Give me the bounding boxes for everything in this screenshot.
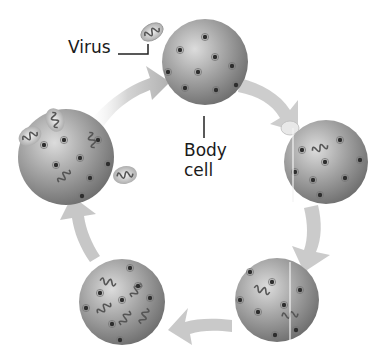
arrow-stage4-to-stage5 xyxy=(60,196,100,262)
budding-virus-icon xyxy=(112,164,139,186)
virus-label-leader-line xyxy=(118,44,148,54)
stage-3-infected-cell xyxy=(235,258,319,342)
arrow-stage3-to-stage4 xyxy=(168,308,232,345)
stage-5-releasing-cell xyxy=(15,106,138,205)
stage-4-replicating-cell xyxy=(79,259,165,345)
virus-particle-icon xyxy=(138,19,167,45)
stage-1-body-cell xyxy=(162,19,248,105)
stage-2-infected-cell xyxy=(284,120,368,204)
body-cell-label-line1: Body xyxy=(184,140,227,160)
arrow-stage1-to-stage2 xyxy=(238,78,299,135)
virus-cycle-diagram: Virus Body cell xyxy=(0,0,370,351)
virus-label: Virus xyxy=(68,37,111,57)
arrow-stage2-to-stage3 xyxy=(292,205,330,272)
body-cell-label-line2: cell xyxy=(184,160,213,180)
